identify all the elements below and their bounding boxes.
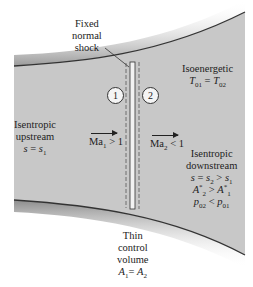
control-volume-line1: Thin (117, 230, 149, 242)
downstream-throat-area: A*2 > A*1 (186, 184, 237, 196)
upstream-label: Isentropic upstream s = s1 (14, 119, 56, 155)
control-volume-label: Thin control volume A1= A2 (117, 230, 149, 278)
control-volume-area: A1= A2 (117, 266, 149, 278)
shock-label: Fixed normal shock (72, 18, 102, 54)
normal-shock (130, 62, 135, 209)
isoenergetic-label: Isoenergetic T01 = T02 (182, 63, 233, 87)
station-1-marker: 1 (107, 87, 124, 104)
downstream-subtitle: downstream (186, 160, 237, 172)
downstream-flow-arrow-icon (152, 135, 178, 136)
downstream-title: Isentropic (186, 148, 237, 160)
upstream-subtitle: upstream (14, 131, 56, 143)
isoenergetic-equation: T01 = T02 (182, 75, 233, 87)
shock-label-line2: normal (72, 30, 102, 42)
control-volume-line3: volume (117, 254, 149, 266)
upstream-entropy: s = s1 (14, 143, 56, 155)
control-volume-line2: control (117, 242, 149, 254)
downstream-label: Isentropic downstream s = s2 > s1 A*2 > … (186, 148, 237, 208)
shock-label-line1: Fixed (72, 18, 102, 30)
downstream-mach: Ma2 < 1 (150, 138, 184, 150)
station-2-marker: 2 (142, 87, 159, 104)
isoenergetic-title: Isoenergetic (182, 63, 233, 75)
upstream-title: Isentropic (14, 119, 56, 131)
downstream-entropy: s = s2 > s1 (186, 172, 237, 184)
upstream-flow-arrow-icon (91, 133, 117, 134)
shock-label-line3: shock (72, 42, 102, 54)
upstream-mach: Ma1 > 1 (89, 136, 123, 148)
